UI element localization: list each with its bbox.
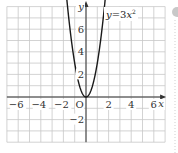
y-tick-label: −2 — [69, 114, 84, 125]
x-tick-label: 6 — [151, 99, 157, 110]
y-tick-label: 2 — [78, 69, 84, 80]
origin-label: O — [75, 99, 83, 110]
y-axis-name: y — [77, 1, 84, 12]
y-tick-label: 6 — [78, 24, 84, 35]
parabola-chart: −6−4−2246−2246Oxy y=3x2 — [0, 0, 178, 153]
x-tick-label: −4 — [31, 99, 46, 110]
curve-label: y=3x2 — [105, 8, 136, 20]
x-tick-label: −2 — [54, 99, 69, 110]
y-tick-label: 4 — [78, 46, 84, 57]
x-tick-label: 4 — [128, 99, 134, 110]
x-axis-name: x — [158, 98, 164, 109]
x-tick-label: 2 — [105, 99, 111, 110]
x-tick-label: −6 — [9, 99, 24, 110]
side-marker-dot — [172, 7, 178, 17]
